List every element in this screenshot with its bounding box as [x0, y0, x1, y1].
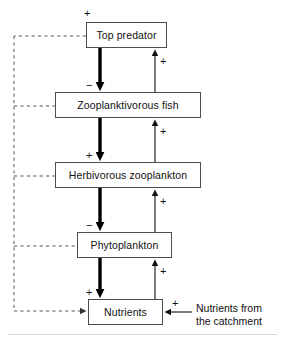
sign-fish-up-to-predator: +: [160, 56, 166, 67]
sign-predator-to-fish: −: [86, 80, 92, 91]
sign-phyto-up-to-zooplankton: +: [160, 196, 166, 207]
node-label-herbivorous-zooplankton: Herbivorous zooplankton: [69, 169, 187, 181]
node-top-predator[interactable]: Top predator: [86, 22, 167, 48]
node-herbivorous-zooplankton[interactable]: Herbivorous zooplankton: [55, 162, 201, 188]
sign-nutrients-up-to-phyto: +: [160, 266, 166, 277]
diagram-canvas: Top predator Zooplanktivorous fish Herbi…: [0, 0, 285, 339]
node-label-nutrients: Nutrients: [104, 306, 147, 318]
figure-bottom-rule: [8, 334, 277, 335]
nutrients-from-catchment-label: Nutrients from the catchment: [196, 302, 262, 328]
sign-zooplankton-to-phyto: −: [86, 220, 92, 231]
node-zooplanktivorous-fish[interactable]: Zooplanktivorous fish: [55, 92, 201, 118]
catchment-label-line1: Nutrients from: [196, 302, 262, 315]
sign-zooplankton-up-to-fish: +: [160, 126, 166, 137]
sign-fish-to-zooplankton: +: [86, 150, 92, 161]
node-phytoplankton[interactable]: Phytoplankton: [77, 232, 172, 258]
sign-catchment-input: +: [172, 298, 178, 309]
node-nutrients[interactable]: Nutrients: [88, 299, 163, 325]
sign-top-predator-input: +: [84, 8, 90, 19]
sign-phyto-to-nutrients: +: [86, 287, 92, 298]
catchment-label-line2: the catchment: [196, 315, 262, 328]
node-label-zooplanktivorous-fish: Zooplanktivorous fish: [77, 99, 178, 111]
node-label-phytoplankton: Phytoplankton: [91, 239, 159, 251]
node-label-top-predator: Top predator: [96, 29, 156, 41]
